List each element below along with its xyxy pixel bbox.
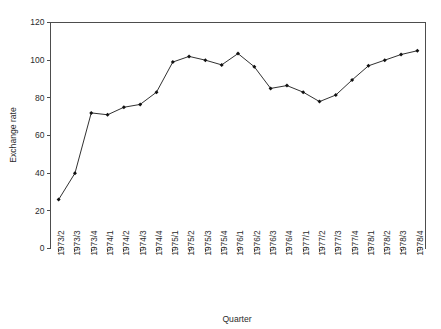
x-axis-tick-label: 1977/1 — [302, 230, 311, 255]
x-axis-tick-labels: 1973/21973/31973/41974/11974/21974/31974… — [57, 230, 425, 255]
data-point — [383, 58, 387, 62]
chart-canvas: 020406080100120 1973/21973/31973/41974/1… — [0, 0, 441, 329]
x-axis-tick-label: 1975/3 — [204, 230, 213, 255]
x-axis-tick-label: 1978/3 — [399, 230, 408, 255]
x-axis-tick-label: 1974/2 — [122, 230, 131, 255]
y-axis-tick-label: 60 — [35, 130, 45, 140]
y-axis-tick-label: 0 — [40, 243, 45, 253]
y-axis-ticks — [47, 23, 51, 249]
plot-border — [51, 23, 426, 249]
x-axis-tick-label: 1978/2 — [383, 230, 392, 255]
y-axis-tick-label: 40 — [35, 168, 45, 178]
x-axis-tick-label: 1978/4 — [416, 230, 425, 255]
data-point — [415, 49, 419, 53]
x-axis-tick-label: 1974/4 — [155, 230, 164, 255]
y-axis-tick-label: 80 — [35, 93, 45, 103]
data-point — [122, 105, 126, 109]
x-axis-tick-label: 1973/2 — [57, 230, 66, 255]
plot-frame — [51, 23, 426, 249]
y-axis-tick-label: 20 — [35, 206, 45, 216]
y-axis-tick-label: 120 — [30, 17, 44, 27]
x-axis-tick-label: 1975/4 — [220, 230, 229, 255]
y-axis-title: Exchange rate — [8, 107, 18, 163]
data-point — [285, 84, 289, 88]
x-axis-title: Quarter — [222, 314, 251, 324]
x-axis-tick-label: 1976/1 — [236, 230, 245, 255]
x-axis-tick-label: 1973/4 — [90, 230, 99, 255]
y-axis-tick-label: 100 — [30, 55, 44, 65]
data-point — [187, 54, 191, 58]
data-point — [301, 90, 305, 94]
data-point — [318, 100, 322, 104]
data-point — [106, 113, 110, 117]
data-point — [89, 111, 93, 115]
x-axis-tick-label: 1974/1 — [106, 230, 115, 255]
x-axis-tick-label: 1978/1 — [367, 230, 376, 255]
x-axis-tick-label: 1975/2 — [187, 230, 196, 255]
y-axis-tick-labels: 020406080100120 — [30, 17, 44, 253]
data-point — [399, 53, 403, 57]
data-series-exchange-rate — [57, 49, 420, 202]
series-markers — [57, 49, 420, 202]
x-axis-tick-label: 1976/2 — [253, 230, 262, 255]
data-point — [73, 171, 77, 175]
data-point — [171, 60, 175, 64]
data-point — [57, 198, 61, 202]
series-line — [59, 51, 418, 200]
x-axis-tick-label: 1975/1 — [171, 230, 180, 255]
x-axis-tick-label: 1976/3 — [269, 230, 278, 255]
x-axis-tick-label: 1974/3 — [139, 230, 148, 255]
x-axis-tick-label: 1977/4 — [351, 230, 360, 255]
exchange-rate-line-chart: 020406080100120 1973/21973/31973/41974/1… — [0, 0, 441, 329]
x-axis-tick-label: 1977/3 — [334, 230, 343, 255]
x-axis-tick-label: 1976/4 — [285, 230, 294, 255]
data-point — [203, 58, 207, 62]
x-axis-tick-label: 1973/3 — [73, 230, 82, 255]
x-axis-tick-label: 1977/2 — [318, 230, 327, 255]
